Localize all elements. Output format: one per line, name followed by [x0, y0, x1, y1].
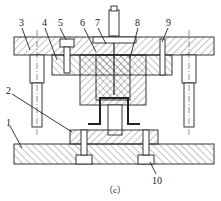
part-label-8: 8: [135, 18, 140, 28]
part-label-1: 1: [6, 118, 11, 128]
part-label-9: 9: [166, 18, 171, 28]
die-assembly-drawing: [0, 0, 221, 201]
part-label-5: 5: [58, 18, 63, 28]
part-label-4: 4: [42, 18, 47, 28]
lower-die-plate: [14, 144, 214, 164]
part-label-7: 7: [95, 18, 100, 28]
screw-10: [138, 155, 154, 164]
part-label-2: 2: [6, 86, 11, 96]
pin-9: [160, 39, 165, 75]
ejector-rod: [109, 10, 119, 36]
screw-5: [60, 39, 74, 47]
part-label-6: 6: [80, 18, 85, 28]
part-label-3: 3: [19, 18, 24, 28]
part-label-10: 10: [152, 176, 162, 186]
figure-caption: （c）: [104, 186, 126, 195]
